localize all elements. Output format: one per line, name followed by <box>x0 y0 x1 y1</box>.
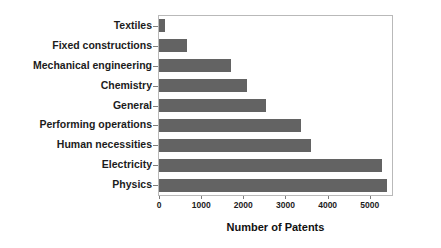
y-label-electricity: Electricity <box>0 155 152 175</box>
y-label-fixed-constructions: Fixed constructions <box>0 36 152 56</box>
x-axis-title: Number of Patents <box>158 221 393 233</box>
bar-chart-figure: TextilesFixed constructionsMechanical en… <box>0 0 441 248</box>
y-tick-mark <box>153 165 158 166</box>
x-tick-label-2000: 2000 <box>234 200 253 210</box>
bar-rect <box>159 179 387 192</box>
bar-physics <box>159 175 387 195</box>
y-tick-mark <box>153 26 158 27</box>
bar-textiles <box>159 16 165 36</box>
y-tick-mark <box>153 185 158 186</box>
y-label-chemistry: Chemistry <box>0 76 152 96</box>
bar-rect <box>159 159 382 172</box>
x-tick-mark <box>285 196 286 199</box>
bar-rect <box>159 19 165 32</box>
y-tick-mark <box>153 66 158 67</box>
y-tick-mark <box>153 145 158 146</box>
y-axis-category-labels: TextilesFixed constructionsMechanical en… <box>0 16 152 195</box>
x-tick-label-5000: 5000 <box>360 200 379 210</box>
bar-rect <box>159 39 187 52</box>
bar-chemistry <box>159 76 247 96</box>
x-axis-ticks: 010002000300040005000 <box>0 196 441 216</box>
x-tick-mark <box>201 196 202 199</box>
y-label-mechanical-engineering: Mechanical engineering <box>0 56 152 76</box>
bars-container <box>159 16 393 195</box>
bar-general <box>159 96 266 116</box>
y-label-human-necessities: Human necessities <box>0 135 152 155</box>
y-tick-mark <box>153 125 158 126</box>
bar-rect <box>159 79 247 92</box>
bar-electricity <box>159 155 382 175</box>
bar-human-necessities <box>159 135 311 155</box>
bar-mechanical-engineering <box>159 56 231 76</box>
bar-rect <box>159 139 311 152</box>
x-tick-mark <box>328 196 329 199</box>
bar-rect <box>159 119 301 132</box>
y-label-physics: Physics <box>0 175 152 195</box>
x-tick-mark <box>243 196 244 199</box>
x-tick-mark <box>159 196 160 199</box>
y-label-textiles: Textiles <box>0 16 152 36</box>
y-tick-mark <box>153 46 158 47</box>
x-tick-label-0: 0 <box>157 200 162 210</box>
bar-rect <box>159 99 266 112</box>
x-tick-label-4000: 4000 <box>318 200 337 210</box>
bar-fixed-constructions <box>159 36 187 56</box>
bar-performing-operations <box>159 115 301 135</box>
y-label-general: General <box>0 96 152 116</box>
y-label-performing-operations: Performing operations <box>0 115 152 135</box>
x-tick-mark <box>370 196 371 199</box>
x-tick-label-1000: 1000 <box>192 200 211 210</box>
bar-rect <box>159 59 231 72</box>
x-tick-label-3000: 3000 <box>276 200 295 210</box>
y-tick-mark <box>153 86 158 87</box>
y-tick-mark <box>153 106 158 107</box>
